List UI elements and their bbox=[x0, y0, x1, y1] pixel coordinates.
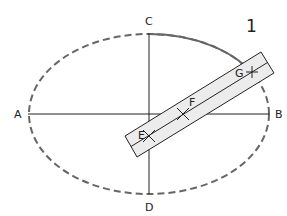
label-D: D bbox=[145, 201, 153, 214]
label-E: E bbox=[138, 129, 145, 142]
diagram-canvas: A B C D E F G 1 bbox=[0, 0, 287, 216]
label-F: F bbox=[189, 96, 195, 109]
label-G: G bbox=[235, 67, 244, 80]
label-A: A bbox=[14, 108, 22, 121]
figure-number: 1 bbox=[246, 16, 257, 36]
label-C: C bbox=[145, 15, 153, 28]
label-B: B bbox=[275, 108, 283, 121]
